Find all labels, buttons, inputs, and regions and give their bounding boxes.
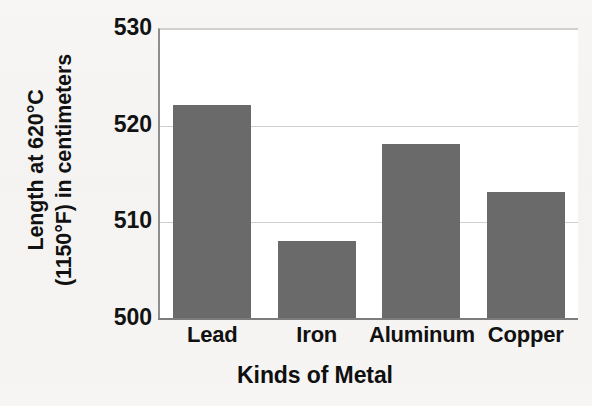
x-tick-label-aluminum: Aluminum	[369, 322, 474, 348]
y-axis-title-line-2: (1150°F) in centimeters	[52, 54, 77, 286]
x-axis-line	[158, 318, 578, 320]
chart-page: Length at 620°C (1150°F) in centimeters …	[0, 0, 592, 406]
x-tick-label-copper: Copper	[474, 322, 579, 348]
bar-aluminum	[382, 144, 460, 318]
bar-series	[160, 28, 578, 318]
y-axis-title-line-1: Length at 620°C	[24, 89, 49, 250]
y-tick-label-510: 510	[90, 209, 152, 232]
bar-copper	[487, 192, 565, 318]
x-tick-label-iron: Iron	[265, 322, 370, 348]
x-axis-tick-labels: LeadIronAluminumCopper	[160, 322, 584, 356]
bar-lead	[173, 105, 251, 318]
y-tick-label-530: 530	[90, 16, 152, 39]
y-axis-tick-labels: 530520510500	[86, 0, 152, 340]
bar-iron	[278, 241, 356, 318]
x-axis-title: Kinds of Metal	[150, 362, 480, 389]
y-axis-title: Length at 620°C (1150°F) in centimeters	[14, 0, 88, 340]
y-tick-label-520: 520	[90, 113, 152, 136]
x-tick-label-lead: Lead	[160, 322, 265, 348]
y-tick-label-500: 500	[90, 306, 152, 329]
